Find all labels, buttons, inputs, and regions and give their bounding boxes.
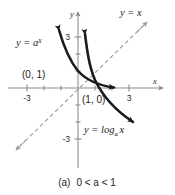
logarithm-label-base: a — [114, 130, 118, 138]
point-label-0-1: (0, 1) — [22, 69, 45, 80]
logarithm-label-text: y = log — [83, 124, 114, 135]
caption-group: (a)0 < a < 1 — [58, 177, 116, 188]
x-tick-label-3: 3 — [127, 93, 132, 103]
identity-arrow-lower-left — [16, 140, 26, 150]
x-axis-label: x — [152, 76, 157, 86]
identity-line-label: y = x — [119, 7, 142, 18]
y-tick-label-3: 3 — [65, 32, 70, 42]
caption-part-label: (a) — [58, 177, 70, 188]
logarithm-label-argument: x — [118, 124, 124, 135]
graph-svg: -3 3 3 -3 x y y = ax y = logax y = x (0,… — [0, 0, 175, 195]
figure-container: -3 3 3 -3 x y y = ax y = logax y = x (0,… — [0, 0, 175, 195]
caption-condition: 0 < a < 1 — [76, 177, 116, 188]
x-tick-label-minus3: -3 — [23, 93, 31, 103]
logarithm-curve — [85, 34, 133, 122]
figure-caption: (a)0 < a < 1 — [58, 177, 116, 188]
y-tick-label-minus3: -3 — [62, 134, 70, 144]
point-label-1-0: (1, 0) — [82, 94, 105, 105]
logarithm-curve-label: y = logax — [83, 124, 124, 138]
exponential-curve-label: y = ax — [15, 36, 42, 49]
exponential-label-text: y = a — [15, 37, 38, 48]
exponential-label-exponent: x — [37, 36, 42, 45]
logarithm-curve-group — [85, 34, 133, 122]
y-axis-label: y — [69, 9, 74, 19]
identity-arrow-upper-right — [137, 22, 147, 32]
